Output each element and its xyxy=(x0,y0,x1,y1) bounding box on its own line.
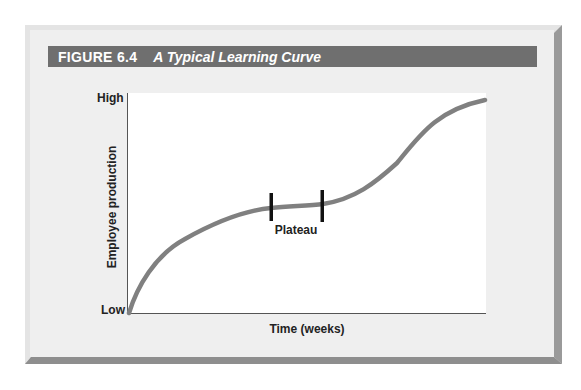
chart-svg: Plateau xyxy=(25,25,562,364)
plateau-end-marker xyxy=(321,190,325,222)
plateau-label: Plateau xyxy=(275,223,318,237)
plateau-start-marker xyxy=(270,193,274,221)
x-axis-title: Time (weeks) xyxy=(127,322,487,336)
learning-curve-line xyxy=(129,100,485,313)
figure-panel: FIGURE 6.4 A Typical Learning Curve High… xyxy=(25,25,562,364)
